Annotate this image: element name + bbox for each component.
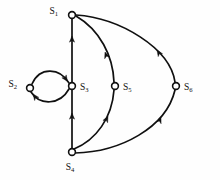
node-label-s1: S1 — [49, 6, 58, 17]
node-labels-layer: S1S2S3S5S6S4 — [8, 6, 193, 173]
graph-edge-s5-to-s1 — [76, 16, 114, 82]
graph-node-s1 — [69, 12, 76, 19]
node-label-s4: S4 — [66, 162, 75, 173]
graph-node-s2 — [27, 85, 34, 92]
graph-node-s6 — [173, 83, 180, 90]
graph-canvas: S1S2S3S5S6S4 — [0, 0, 220, 180]
state-transition-diagram: S1S2S3S5S6S4 — [0, 0, 220, 180]
graph-edge-s3-to-s2 — [31, 89, 69, 102]
node-label-s2: S2 — [8, 79, 17, 90]
graph-node-s4 — [69, 149, 76, 156]
graph-node-s5 — [112, 83, 119, 90]
node-label-s3: S3 — [80, 82, 89, 93]
edges-layer — [31, 15, 175, 153]
arrowheads-layer — [31, 36, 163, 124]
node-label-s6: S6 — [184, 82, 193, 93]
graph-edge-s6-to-s1 — [76, 15, 175, 82]
nodes-layer — [27, 12, 180, 156]
graph-edge-s2-to-s3 — [32, 71, 69, 84]
node-label-s5: S5 — [123, 82, 132, 93]
graph-node-s3 — [69, 83, 76, 90]
